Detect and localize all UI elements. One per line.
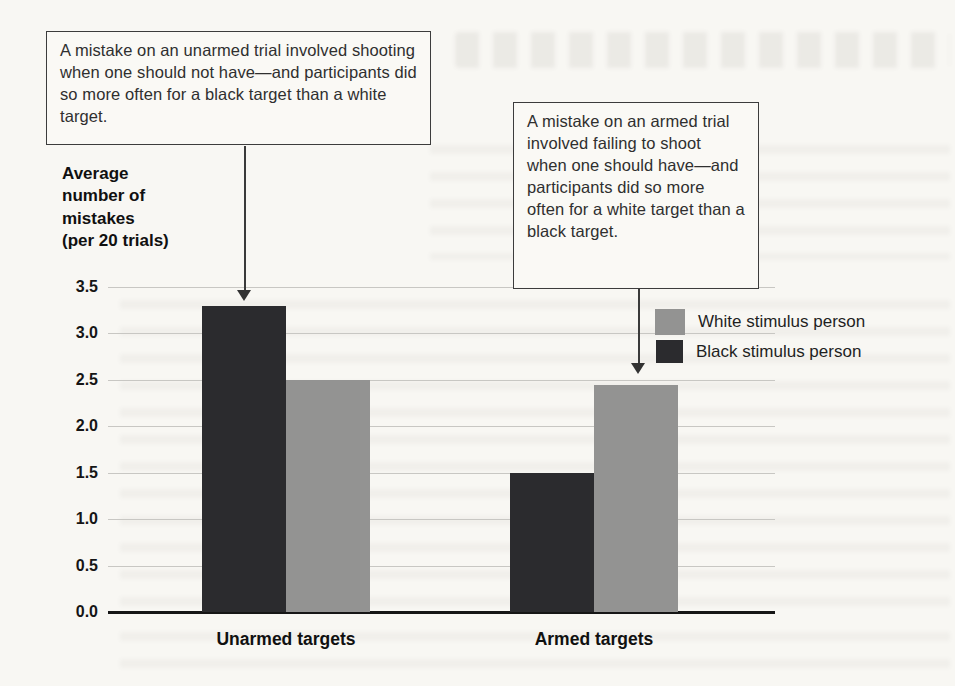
y-tick-label-1.0: 1.0 bbox=[50, 509, 98, 529]
arrow-shaft bbox=[244, 146, 246, 290]
x-category-label-unarmed-targets: Unarmed targets bbox=[216, 629, 355, 650]
bar-black-stimulus-person-armed-targets bbox=[510, 473, 594, 612]
arrow-to-armed-white-bar bbox=[631, 289, 646, 374]
legend-label-black-stimulus: Black stimulus person bbox=[696, 342, 861, 362]
annotation-armed-text: A mistake on an armed trial involved fai… bbox=[527, 112, 745, 240]
bar-black-stimulus-person-unarmed-targets bbox=[202, 306, 286, 612]
annotation-unarmed-text: A mistake on an unarmed trial involved s… bbox=[60, 41, 417, 125]
y-tick-label-2.5: 2.5 bbox=[50, 370, 98, 390]
y-tick-label-0.5: 0.5 bbox=[50, 556, 98, 576]
y-axis-title-line: Average bbox=[62, 163, 169, 185]
bar-white-stimulus-person-unarmed-targets bbox=[286, 380, 370, 612]
x-category-label-armed-targets: Armed targets bbox=[535, 629, 654, 650]
y-axis-title-line: number of bbox=[62, 185, 169, 207]
figure: A mistake on an unarmed trial involved s… bbox=[0, 0, 955, 686]
annotation-unarmed-note: A mistake on an unarmed trial involved s… bbox=[46, 31, 431, 145]
arrow-to-unarmed-black-bar bbox=[237, 146, 252, 300]
legend-swatch-white-stimulus bbox=[655, 309, 685, 335]
legend: White stimulus person Black stimulus per… bbox=[655, 309, 865, 368]
y-axis-title-line: (per 20 trials) bbox=[62, 230, 169, 252]
arrow-head-icon bbox=[631, 363, 645, 374]
legend-item-white-stimulus: White stimulus person bbox=[655, 309, 865, 335]
y-axis-title-line: mistakes bbox=[62, 208, 169, 230]
bar-white-stimulus-person-armed-targets bbox=[594, 385, 678, 613]
legend-swatch-black-stimulus bbox=[656, 340, 683, 363]
y-axis-title: Average number of mistakes (per 20 trial… bbox=[62, 163, 169, 253]
y-tick-label-3.5: 3.5 bbox=[50, 277, 98, 297]
annotation-armed-note: A mistake on an armed trial involved fai… bbox=[513, 102, 759, 289]
legend-label-white-stimulus: White stimulus person bbox=[698, 312, 865, 332]
arrow-shaft bbox=[638, 289, 640, 363]
arrow-head-icon bbox=[237, 290, 251, 301]
y-tick-label-0.0: 0.0 bbox=[50, 602, 98, 622]
y-tick-label-1.5: 1.5 bbox=[50, 463, 98, 483]
y-tick-label-3.0: 3.0 bbox=[50, 323, 98, 343]
legend-item-black-stimulus: Black stimulus person bbox=[655, 340, 865, 363]
y-tick-label-2.0: 2.0 bbox=[50, 416, 98, 436]
page-bleedthrough-texture bbox=[455, 32, 950, 68]
